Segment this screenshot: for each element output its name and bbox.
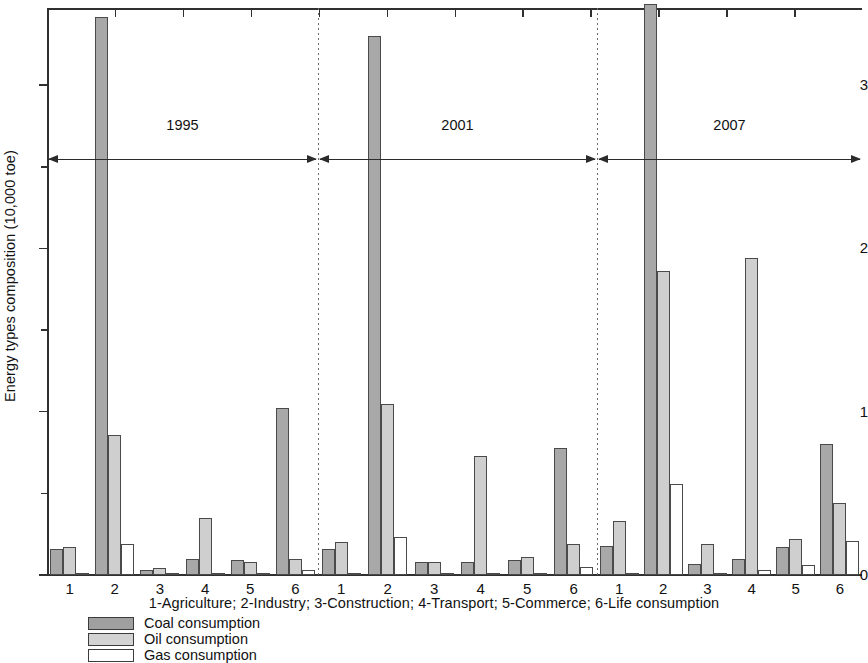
- arrow-line: [320, 159, 595, 160]
- category-caption: 1-Agriculture; 2-Industry; 3-Constructio…: [0, 595, 868, 611]
- period-label-2001: 2001: [318, 117, 597, 133]
- y-axis-label: Energy types composition (10,000 toe): [2, 16, 18, 536]
- bar-2007-cat2-gas: [670, 484, 683, 575]
- bar-2007-cat1-gas: [626, 573, 639, 575]
- bar-2007-cat1-coal: [600, 546, 613, 575]
- bar-1995-cat1-gas: [76, 573, 89, 575]
- arrow-line: [599, 159, 860, 160]
- bar-1995-cat6-gas: [302, 570, 315, 575]
- period-range-arrow-2001: [320, 159, 595, 161]
- bar-2001-cat5-coal: [508, 560, 521, 575]
- bar-2001-cat3-oil: [428, 562, 441, 575]
- bar-1995-cat4-gas: [212, 573, 225, 575]
- bar-2007-cat3-oil: [701, 544, 714, 575]
- legend-item-oil: Oil consumption: [88, 632, 260, 647]
- bar-2007-cat3-gas: [714, 573, 727, 575]
- bar-2007-cat6-coal: [820, 444, 833, 575]
- bar-2001-cat4-gas: [487, 573, 500, 575]
- bar-1995-cat5-gas: [257, 573, 270, 575]
- bar-groups: [47, 8, 862, 575]
- bar-1995-cat1-coal: [50, 549, 63, 575]
- bar-2007-cat6-gas: [846, 541, 859, 575]
- bar-2007-cat4-coal: [732, 559, 745, 575]
- bar-2007-cat2-coal: [644, 4, 657, 575]
- legend-label-oil: Oil consumption: [144, 632, 248, 647]
- bar-2001-cat4-coal: [461, 562, 474, 575]
- legend-item-coal: Coal consumption: [88, 616, 260, 631]
- bar-2001-cat1-coal: [322, 549, 335, 575]
- bar-1995-cat3-oil: [153, 568, 166, 575]
- bar-2001-cat3-coal: [415, 562, 428, 575]
- arrow-head-right-icon: [307, 155, 317, 163]
- period-range-arrow-1995: [49, 159, 316, 161]
- legend-swatch-oil: [88, 633, 134, 646]
- bar-1995-cat2-gas: [121, 544, 134, 575]
- bar-1995-cat2-oil: [108, 435, 121, 575]
- legend-label-coal: Coal consumption: [144, 616, 260, 631]
- bar-2001-cat6-gas: [580, 567, 593, 575]
- bar-1995-cat5-oil: [244, 562, 257, 575]
- legend: Coal consumptionOil consumptionGas consu…: [88, 616, 260, 663]
- period-label-2007: 2007: [597, 117, 862, 133]
- bar-2001-cat6-coal: [554, 448, 567, 575]
- bar-2007-cat1-oil: [613, 521, 626, 575]
- bar-1995-cat2-coal: [95, 17, 108, 575]
- bar-2001-cat5-gas: [534, 573, 547, 575]
- bar-2001-cat4-oil: [474, 456, 487, 575]
- bar-1995-cat6-oil: [289, 559, 302, 575]
- arrow-line: [49, 159, 316, 160]
- bar-1995-cat5-coal: [231, 560, 244, 575]
- energy-composition-bar-chart: Energy types composition (10,000 toe) 01…: [0, 0, 868, 663]
- arrow-head-left-icon: [319, 155, 329, 163]
- bar-1995-cat1-oil: [63, 547, 76, 575]
- bar-1995-cat3-coal: [140, 570, 153, 575]
- bar-2001-cat5-oil: [521, 557, 534, 575]
- bar-1995-cat4-coal: [186, 559, 199, 575]
- bar-2007-cat5-gas: [802, 565, 815, 575]
- period-separator-1: [318, 8, 319, 575]
- bar-2007-cat3-coal: [688, 564, 701, 575]
- legend-label-gas: Gas consumption: [144, 648, 257, 663]
- bar-2001-cat1-gas: [348, 573, 361, 575]
- bar-2001-cat1-oil: [335, 542, 348, 575]
- arrow-head-left-icon: [598, 155, 608, 163]
- bar-1995-cat6-coal: [276, 408, 289, 575]
- bar-2007-cat5-oil: [789, 539, 802, 575]
- arrow-head-right-icon: [851, 155, 861, 163]
- bar-2001-cat2-gas: [394, 537, 407, 575]
- bar-2007-cat4-gas: [758, 570, 771, 575]
- arrow-head-left-icon: [48, 155, 58, 163]
- period-label-1995: 1995: [47, 117, 318, 133]
- bar-2001-cat2-oil: [381, 404, 394, 575]
- plot-area: [47, 8, 862, 575]
- legend-item-gas: Gas consumption: [88, 648, 260, 663]
- bar-2007-cat5-coal: [776, 547, 789, 575]
- legend-swatch-coal: [88, 617, 134, 630]
- bar-2007-cat4-oil: [745, 258, 758, 575]
- legend-swatch-gas: [88, 649, 134, 662]
- bar-2007-cat6-oil: [833, 503, 846, 575]
- arrow-head-right-icon: [586, 155, 596, 163]
- period-range-arrow-2007: [599, 159, 860, 161]
- period-separator-2: [597, 8, 598, 575]
- bar-2001-cat6-oil: [567, 544, 580, 575]
- bar-2001-cat3-gas: [441, 573, 454, 575]
- bar-1995-cat4-oil: [199, 518, 212, 575]
- bar-1995-cat3-gas: [166, 573, 179, 575]
- bar-2007-cat2-oil: [657, 271, 670, 575]
